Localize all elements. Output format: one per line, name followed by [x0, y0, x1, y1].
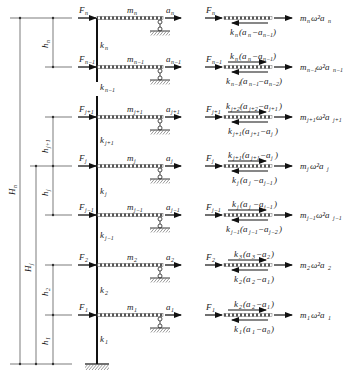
svg-text:1: 1	[212, 307, 215, 313]
svg-text:n: n	[307, 18, 310, 24]
svg-text:2: 2	[239, 279, 242, 285]
svg-text:F: F	[78, 153, 85, 163]
svg-text:n−1: n−1	[171, 59, 181, 65]
svg-text:j+1: j+1	[170, 109, 180, 115]
svg-text:1: 1	[267, 304, 270, 310]
svg-text:): )	[278, 224, 282, 234]
svg-text:j−1: j−1	[104, 235, 114, 241]
svg-text:2: 2	[171, 257, 174, 263]
svg-text:n−1: n−1	[212, 59, 222, 65]
svg-text:m: m	[127, 153, 134, 163]
fbd-level-n-1: kn(an−an−1) Fn−1 kn−1(an−1−an−2) mn−1ω²a…	[205, 51, 343, 87]
svg-text:): )	[278, 101, 282, 111]
svg-text:(a: (a	[243, 299, 251, 309]
svg-text:j: j	[28, 263, 34, 266]
svg-text:j+2: j+2	[248, 106, 258, 112]
svg-text:n: n	[171, 10, 174, 16]
svg-text:1: 1	[267, 279, 270, 285]
svg-text:j+1: j+1	[232, 155, 242, 161]
stiffness-labels: kn kn−1 kj+1 kj kj−1 k2 k1	[100, 40, 115, 345]
svg-text:1: 1	[85, 307, 88, 313]
shear-frame-diagram: H n H j h n h j+1 h j h 2 h 1	[0, 0, 343, 381]
svg-text:−a: −a	[258, 101, 269, 111]
svg-text:F: F	[205, 202, 212, 212]
svg-text:j: j	[248, 180, 251, 186]
svg-text:−a: −a	[252, 51, 263, 61]
fbd-level-j+1: kj+2(aj+2−aj+1) Fj+1 kj+1(aj+1−aj) mj+1ω…	[205, 101, 342, 137]
svg-text:): )	[270, 324, 274, 334]
svg-text:j+1: j+1	[133, 109, 143, 115]
svg-text:m: m	[300, 260, 307, 270]
svg-text:j−1: j−1	[263, 204, 273, 210]
svg-text:ω²a: ω²a	[311, 260, 325, 270]
fbd-level-2: k3(a3−a2) F2 k2(a2−a1) m2ω²a2	[205, 249, 331, 285]
svg-text:2: 2	[212, 257, 215, 263]
svg-text:1: 1	[45, 337, 51, 340]
svg-text:F: F	[78, 202, 85, 212]
svg-text:2: 2	[252, 304, 255, 310]
svg-text:j−1: j−1	[84, 207, 94, 213]
svg-text:m: m	[300, 161, 307, 171]
svg-text:j+1: j+1	[332, 117, 342, 123]
svg-text:m: m	[300, 210, 307, 220]
svg-text:F: F	[78, 54, 85, 64]
floor-levels: Fn mn an Fn−1 mn−1 an−1 Fj+1	[78, 5, 181, 333]
svg-text:n−1: n−1	[333, 67, 343, 73]
svg-text:−a: −a	[260, 150, 271, 160]
svg-text:j+2: j+2	[230, 106, 240, 112]
svg-text:j+1: j+1	[45, 139, 51, 149]
dimension-labels: H n H j h n h j+1 h j h 2 h 1	[7, 40, 51, 345]
svg-text:2: 2	[85, 257, 88, 263]
svg-text:): )	[274, 126, 278, 136]
level-1: F1 m1 a1	[78, 302, 181, 333]
svg-text:2: 2	[328, 265, 331, 271]
svg-text:(a: (a	[240, 199, 248, 209]
svg-text:j: j	[248, 204, 251, 210]
svg-text:3: 3	[251, 254, 255, 260]
svg-text:2: 2	[267, 254, 270, 260]
svg-text:−a: −a	[253, 175, 264, 185]
svg-text:ω²a: ω²a	[316, 210, 330, 220]
svg-text:F: F	[205, 252, 212, 262]
svg-text:1: 1	[239, 329, 242, 335]
svg-text:ω²a: ω²a	[311, 13, 325, 23]
svg-text:j: j	[170, 158, 173, 164]
svg-text:n: n	[85, 10, 88, 16]
svg-text:n−1: n−1	[85, 59, 95, 65]
label-H-n: H n	[7, 185, 18, 196]
label-H-j: H j	[23, 263, 34, 273]
svg-text:(a: (a	[242, 126, 250, 136]
level-j-1: Fj−1 mj−1 aj−1	[78, 202, 181, 233]
svg-text:(a: (a	[240, 101, 248, 111]
svg-text:−a: −a	[252, 27, 263, 37]
svg-text:n: n	[235, 32, 238, 38]
svg-text:n: n	[134, 10, 137, 16]
svg-text:j: j	[104, 191, 107, 197]
level-j+1: Fj+1 mj+1 aj+1	[78, 104, 181, 135]
svg-text:−a: −a	[258, 76, 269, 86]
svg-text:j: j	[270, 155, 273, 161]
svg-text:m: m	[300, 310, 307, 320]
svg-text:): )	[270, 274, 274, 284]
svg-text:n−1: n−1	[263, 56, 273, 62]
svg-text:(a: (a	[239, 51, 247, 61]
svg-text:ω²a: ω²a	[316, 62, 330, 72]
svg-text:m: m	[127, 5, 134, 15]
svg-text:−a: −a	[260, 126, 271, 136]
svg-text:n−1: n−1	[105, 87, 115, 93]
svg-text:−a: −a	[256, 249, 267, 259]
svg-text:F: F	[78, 104, 85, 114]
svg-text:ω²a: ω²a	[310, 161, 324, 171]
svg-text:j−1: j−1	[332, 215, 342, 221]
svg-text:): )	[272, 51, 276, 61]
svg-text:n−2: n−2	[269, 81, 279, 87]
svg-text:n: n	[328, 18, 331, 24]
svg-text:j: j	[45, 189, 51, 192]
svg-text:n−1: n−1	[263, 32, 273, 38]
svg-text:n: n	[248, 32, 251, 38]
free-body-diagrams: Fn kn(an−an−1) mnω²an kn(an−an−1) Fn−1 k…	[205, 5, 343, 335]
svg-text:m: m	[127, 302, 134, 312]
label-h-j: h j	[40, 189, 51, 196]
svg-text:n: n	[212, 10, 215, 16]
svg-text:m: m	[127, 202, 134, 212]
